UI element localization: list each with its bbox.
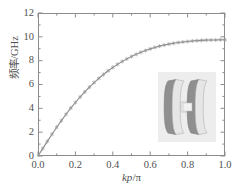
y-tick-label: 4 bbox=[10, 103, 34, 114]
x-tick-label: 0.2 bbox=[58, 160, 92, 171]
x-tick-label: 1.0 bbox=[208, 160, 242, 171]
x-axis-title: kp/π bbox=[38, 172, 225, 183]
x-axis-title-symbol: kp bbox=[122, 171, 132, 183]
figure-container: 024681012 0.00.20.40.60.81.0 频率/GHz kp/π bbox=[0, 0, 242, 190]
x-axis-title-suffix: /π bbox=[132, 171, 141, 183]
x-tick-label: 0.4 bbox=[96, 160, 130, 171]
inset-structure-image bbox=[158, 72, 216, 142]
x-tick-label: 0.8 bbox=[171, 160, 205, 171]
x-tick-label: 0.0 bbox=[21, 160, 55, 171]
data-point-marker bbox=[120, 60, 123, 64]
x-tick-label: 0.6 bbox=[133, 160, 167, 171]
y-axis-title: 频率/GHz bbox=[9, 18, 20, 98]
connecting-bar-front bbox=[183, 103, 192, 111]
y-tick-label: 2 bbox=[10, 127, 34, 138]
inset-drawing bbox=[158, 72, 216, 142]
